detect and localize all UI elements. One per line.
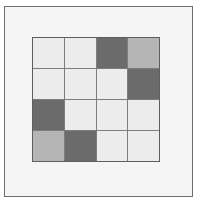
grid-cell-r2-c4 [128,69,159,99]
grid-cell-r2-c2 [65,69,96,99]
grid-cell-r1-c3 [97,38,128,68]
grid-cell-r4-c2 [65,131,96,161]
grid-cell-r3-c1 [33,100,64,130]
grid-cell-r3-c3 [97,100,128,130]
grid-cell-r1-c1 [33,38,64,68]
grid-cell-r4-c3 [97,131,128,161]
grid-cell-r4-c1 [33,131,64,161]
grid-panel [32,37,160,162]
grid-cell-r2-c3 [97,69,128,99]
grid-cell-r4-c4 [128,131,159,161]
image-canvas [0,0,202,208]
grid-cell-r3-c4 [128,100,159,130]
grid-cell-r2-c1 [33,69,64,99]
outer-frame [4,6,193,197]
grid-cell-r3-c2 [65,100,96,130]
grid-cell-r1-c4 [128,38,159,68]
grid-cell-r1-c2 [65,38,96,68]
